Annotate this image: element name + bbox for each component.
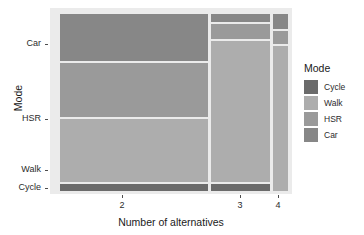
mosaic-tile	[273, 46, 288, 191]
y-tick-mark	[45, 44, 48, 45]
legend-item-label: Walk	[324, 98, 343, 108]
y-tick-label: Walk	[0, 164, 41, 174]
x-tick-mark	[122, 195, 123, 198]
legend-item-label: Cycle	[324, 82, 345, 92]
x-axis-title: Number of alternatives	[50, 216, 292, 228]
legend: Mode CycleWalkHSRCar	[300, 62, 364, 143]
legend-color-swatch	[304, 128, 318, 142]
mosaic-tile	[60, 119, 208, 182]
legend-item: Walk	[300, 95, 364, 110]
mosaic-tile	[60, 14, 208, 61]
plot-panel	[50, 8, 292, 194]
y-tick-mark	[45, 188, 48, 189]
legend-color-swatch	[304, 96, 318, 110]
legend-item: Cycle	[300, 79, 364, 94]
mosaic-tile	[60, 63, 208, 117]
y-axis-title: Mode	[12, 58, 24, 138]
mosaic-tile	[60, 184, 208, 191]
x-tick-mark	[278, 195, 279, 198]
x-tick-label: 4	[258, 200, 298, 210]
y-tick-mark	[45, 170, 48, 171]
x-tick-mark	[240, 195, 241, 198]
mosaic-tile	[211, 24, 270, 39]
legend-item: Car	[300, 127, 364, 142]
mosaic-tile	[273, 14, 288, 29]
legend-item-label: Car	[324, 130, 338, 140]
legend-items: CycleWalkHSRCar	[300, 79, 364, 142]
mosaic-plot: CarHSRWalkCycle Mode 234 Number of alter…	[0, 0, 364, 235]
x-tick-label: 2	[102, 200, 142, 210]
legend-color-swatch	[304, 112, 318, 126]
mosaic-tile	[211, 184, 270, 191]
y-tick-mark	[45, 119, 48, 120]
legend-item: HSR	[300, 111, 364, 126]
y-tick-label: Car	[0, 38, 41, 48]
mosaic-tile	[211, 41, 270, 182]
mosaic-tile	[211, 14, 270, 22]
x-tick-label: 3	[220, 200, 260, 210]
legend-color-swatch	[304, 80, 318, 94]
legend-item-label: HSR	[324, 114, 342, 124]
mosaic-tile	[273, 31, 288, 44]
y-tick-label: Cycle	[0, 182, 41, 192]
legend-title: Mode	[304, 62, 364, 74]
